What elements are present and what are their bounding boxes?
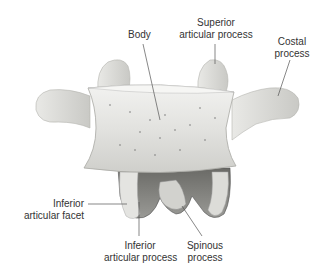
label-spinous-process: Spinous process xyxy=(186,240,224,264)
leader-spinous-process xyxy=(182,206,202,236)
vertebral-body xyxy=(84,85,236,173)
superior-articular-process-right xyxy=(198,60,228,92)
label-inferior-articular-facet: Inferior articular facet xyxy=(18,198,84,222)
costal-process-left xyxy=(36,90,90,128)
inferior-articular-facet-shape xyxy=(120,172,140,219)
label-costal-process: Costal process xyxy=(272,36,312,60)
label-body: Body xyxy=(128,29,151,41)
costal-process-right xyxy=(232,88,299,140)
label-superior-articular-process: Superior articular process xyxy=(178,17,254,41)
label-inferior-articular-process: Inferior articular process xyxy=(104,240,176,264)
